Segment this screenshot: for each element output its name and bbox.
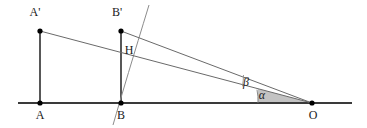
label-a-prime: A' [30, 5, 41, 19]
label-b-prime: B' [112, 5, 122, 19]
ray-aprime-to-o [40, 31, 312, 103]
label-h: H [125, 43, 134, 57]
label-alpha: α [259, 88, 266, 102]
label-a: A [36, 108, 45, 122]
vertex-dot-a [37, 100, 42, 105]
label-beta: β [242, 75, 249, 89]
vertex-dot-b [118, 100, 123, 105]
label-b: B [117, 108, 125, 122]
label-o: O [309, 108, 318, 122]
vertex-dot-b-prime [118, 28, 123, 33]
ray-bprime-to-o [121, 31, 312, 103]
geometry-diagram: A' B' H A B O α β [0, 0, 367, 128]
diagram-canvas: A' B' H A B O α β [0, 0, 367, 128]
vertex-dot-a-prime [37, 28, 42, 33]
arc-curve-through-b [113, 5, 149, 125]
vertex-dot-o [309, 100, 314, 105]
